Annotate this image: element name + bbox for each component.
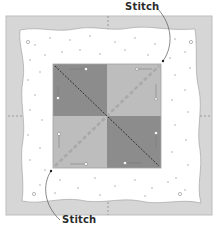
quilt-stitch-diagram — [0, 0, 218, 231]
stitch-label-bottom: Stitch — [62, 214, 96, 225]
callout-tip-top — [162, 60, 164, 62]
callout-tip-bottom — [50, 170, 52, 172]
quadrant-top-right — [107, 64, 161, 116]
stitch-label-top: Stitch — [125, 1, 159, 12]
